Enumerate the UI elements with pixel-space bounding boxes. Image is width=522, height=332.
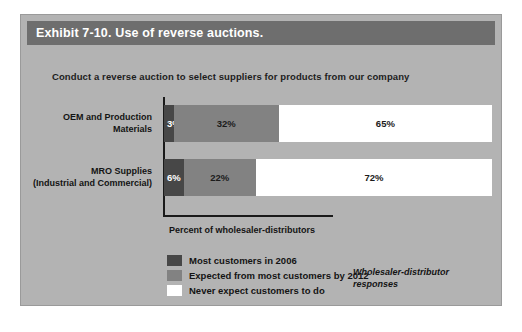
bar-segment-most-customers-2006: 3%	[164, 105, 174, 142]
bar-row: OEM and Production Materials 3% 32% 65%	[27, 105, 495, 142]
bar-segment-most-customers-2006: 6%	[164, 159, 184, 196]
legend-item: Most customers in 2006	[167, 253, 369, 267]
category-label-line: MRO Supplies	[27, 166, 152, 178]
chart-subtitle: Conduct a reverse auction to select supp…	[52, 71, 410, 82]
bar-track: 3% 32% 65%	[164, 105, 492, 142]
category-label-line: OEM and Production	[27, 112, 152, 124]
chart-legend: Most customers in 2006 Expected from mos…	[167, 253, 369, 298]
category-label: MRO Supplies (Industrial and Commercial)	[27, 166, 158, 189]
plot-area: OEM and Production Materials 3% 32% 65% …	[27, 97, 495, 219]
page-title: Exhibit 7-10. Use of reverse auctions.	[27, 26, 263, 40]
bar-segment-expected-by-2012: 32%	[174, 105, 279, 142]
exhibit-title-bar: Exhibit 7-10. Use of reverse auctions.	[27, 21, 495, 45]
legend-label: Expected from most customers by 2012	[189, 270, 369, 281]
legend-swatch-icon	[167, 285, 182, 296]
bar-segment-expected-by-2012: 22%	[184, 159, 256, 196]
chart-body: Conduct a reverse auction to select supp…	[27, 49, 495, 299]
axis-horizontal-line	[163, 215, 333, 217]
bar-segment-never-expect: 72%	[256, 159, 492, 196]
chart-annotation: Wholesaler-distributor responses	[353, 267, 473, 290]
legend-item: Expected from most customers by 2012	[167, 268, 369, 282]
bar-track: 6% 22% 72%	[164, 159, 492, 196]
bar-segment-never-expect: 65%	[279, 105, 492, 142]
x-axis-label: Percent of wholesaler-distributors	[169, 225, 315, 235]
legend-swatch-icon	[167, 255, 182, 266]
legend-label: Most customers in 2006	[189, 255, 297, 266]
category-label-line: Materials	[27, 124, 152, 136]
bar-row: MRO Supplies (Industrial and Commercial)…	[27, 159, 495, 196]
legend-label: Never expect customers to do	[189, 285, 325, 296]
legend-item: Never expect customers to do	[167, 283, 369, 297]
legend-swatch-icon	[167, 270, 182, 281]
category-label: OEM and Production Materials	[27, 112, 158, 135]
exhibit-panel: Exhibit 7-10. Use of reverse auctions. C…	[20, 14, 502, 306]
category-label-line: (Industrial and Commercial)	[27, 178, 152, 190]
